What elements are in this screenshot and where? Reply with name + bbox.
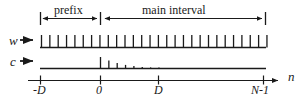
axis-tick-label-zero: 0 bbox=[96, 84, 102, 96]
row-c bbox=[20, 57, 266, 69]
span-label-main-interval: main interval bbox=[140, 4, 208, 16]
axis-tick-label-minus-d: -D bbox=[33, 84, 46, 96]
row-w bbox=[20, 35, 267, 48]
axis-label-n: n bbox=[288, 70, 295, 83]
axis-tick-label-n-minus-1: N-1 bbox=[251, 84, 269, 96]
row-w-ticks bbox=[42, 35, 267, 48]
span-label-prefix: prefix bbox=[52, 4, 85, 16]
n-axis bbox=[28, 76, 278, 85]
ofdm-timing-diagram: prefix main interval w c n -D 0 D N-1 bbox=[0, 0, 303, 99]
axis-tick-label-d: D bbox=[154, 84, 163, 96]
row-label-c: c bbox=[10, 55, 16, 68]
row-c-ticks bbox=[101, 57, 159, 69]
row-label-w: w bbox=[9, 34, 18, 47]
